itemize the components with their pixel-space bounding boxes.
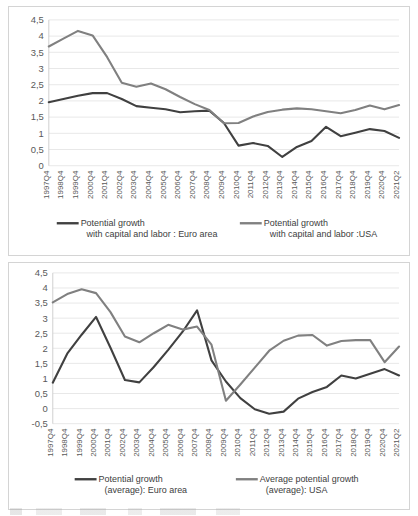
x-axis-tick-label: 2016Q4 xyxy=(319,170,328,199)
figure-container: 00,511,522,533,544,51997Q41998Q41999Q420… xyxy=(0,0,418,516)
legend-label-line2: (average): USA xyxy=(266,485,328,495)
x-axis-tick-label: 2006Q4 xyxy=(173,170,182,199)
x-axis-tick-label: 2005Q4 xyxy=(161,428,170,457)
x-axis-tick-label: 2020Q4 xyxy=(377,170,386,199)
x-axis-tick-label: 2011Q4 xyxy=(246,170,255,198)
x-axis-tick-label: 2014Q4 xyxy=(291,428,300,457)
x-axis-tick-label: 2019Q4 xyxy=(363,170,372,199)
x-axis-tick-label: 2006Q4 xyxy=(176,428,185,457)
y-axis-tick-label: 2 xyxy=(43,343,48,354)
y-axis-tick-label: 1,5 xyxy=(31,111,44,122)
x-axis-tick-label: 2015Q4 xyxy=(305,428,314,457)
x-axis-tick-label: 2021Q2 xyxy=(392,428,401,457)
x-axis-tick-label: 1999Q4 xyxy=(75,428,84,457)
x-axis-tick-label: 2001Q4 xyxy=(100,170,109,199)
x-axis-tick-label: 1997Q4 xyxy=(46,428,55,457)
chart-bottom-plot-area: -0,500,511,522,533,544,51997Q41998Q41999… xyxy=(9,263,409,509)
x-axis-tick-label: 1998Q4 xyxy=(56,170,65,199)
legend-label-line2: with capital and labor :USA xyxy=(269,229,378,239)
x-axis-tick-label: 2011Q4 xyxy=(248,428,257,456)
series-line xyxy=(53,289,399,401)
y-axis-tick-label: -0,5 xyxy=(32,418,48,429)
x-axis-tick-label: 2009Q4 xyxy=(217,170,226,199)
y-axis-tick-label: 3 xyxy=(39,63,44,74)
x-axis-tick-label: 2009Q4 xyxy=(219,428,228,457)
y-axis-tick-label: 2,5 xyxy=(31,79,44,90)
legend-label: Potential growth xyxy=(81,218,145,228)
y-axis-tick-label: 2 xyxy=(39,95,44,106)
legend-label: Potential growth xyxy=(264,218,328,228)
y-axis-tick-label: 1,5 xyxy=(35,358,48,369)
x-axis-tick-label: 2010Q4 xyxy=(233,428,242,457)
x-axis-tick-label: 2017Q4 xyxy=(334,170,343,199)
x-axis-tick-label: 2000Q4 xyxy=(89,428,98,457)
x-axis-tick-label: 2019Q4 xyxy=(363,428,372,457)
x-axis-tick-label: 1998Q4 xyxy=(60,428,69,457)
legend-label-line2: (average): Euro area xyxy=(105,485,188,495)
chart-average-potential-growth: -0,500,511,522,533,544,51997Q41998Q41999… xyxy=(8,262,410,510)
chart-top-svg: 00,511,522,533,544,51997Q41998Q41999Q420… xyxy=(9,7,409,255)
y-axis-tick-label: 0 xyxy=(43,403,48,414)
x-axis-tick-label: 2001Q4 xyxy=(103,428,112,457)
y-axis-tick-label: 1 xyxy=(39,128,44,139)
x-axis-tick-label: 2018Q4 xyxy=(348,170,357,199)
page-text-artifact xyxy=(10,508,270,515)
x-axis-tick-label: 2002Q4 xyxy=(115,170,124,199)
x-axis-tick-label: 2007Q4 xyxy=(190,428,199,457)
y-axis-tick-label: 4,5 xyxy=(35,267,48,278)
x-axis-tick-label: 2017Q4 xyxy=(334,428,343,457)
x-axis-tick-label: 2015Q4 xyxy=(304,170,313,199)
x-axis-tick-label: 2003Q4 xyxy=(132,428,141,457)
y-axis-tick-label: 3 xyxy=(43,313,48,324)
x-axis-tick-label: 2004Q4 xyxy=(144,170,153,199)
x-axis-tick-label: 2012Q4 xyxy=(261,170,270,199)
x-axis-tick-label: 2014Q4 xyxy=(290,170,299,199)
y-axis-tick-label: 3,5 xyxy=(31,47,44,58)
x-axis-tick-label: 2020Q4 xyxy=(378,428,387,457)
x-axis-tick-label: 2021Q2 xyxy=(392,170,401,199)
x-axis-tick-label: 2008Q4 xyxy=(202,170,211,199)
x-axis-tick-label: 2013Q4 xyxy=(275,170,284,199)
y-axis-tick-label: 4 xyxy=(39,30,44,41)
x-axis-tick-label: 1999Q4 xyxy=(71,170,80,199)
x-axis-tick-label: 2012Q4 xyxy=(262,428,271,457)
y-axis-tick-label: 3,5 xyxy=(35,297,48,308)
y-axis-tick-label: 1 xyxy=(43,373,48,384)
y-axis-tick-label: 4,5 xyxy=(31,14,44,25)
x-axis-tick-label: 2000Q4 xyxy=(86,170,95,199)
x-axis-tick-label: 2018Q4 xyxy=(349,428,358,457)
y-axis-tick-label: 2,5 xyxy=(35,328,48,339)
x-axis-tick-label: 2013Q4 xyxy=(277,428,286,457)
series-line xyxy=(49,93,399,157)
x-axis-tick-label: 1997Q4 xyxy=(42,170,51,199)
chart-bottom-svg: -0,500,511,522,533,544,51997Q41998Q41999… xyxy=(9,263,409,509)
x-axis-tick-label: 2004Q4 xyxy=(147,428,156,457)
x-axis-tick-label: 2008Q4 xyxy=(204,428,213,457)
x-axis-tick-label: 2002Q4 xyxy=(118,428,127,457)
y-axis-tick-label: 0,5 xyxy=(35,388,48,399)
x-axis-tick-label: 2005Q4 xyxy=(159,170,168,199)
y-axis-tick-label: 0,5 xyxy=(31,144,44,155)
series-line xyxy=(49,31,399,123)
x-axis-tick-label: 2003Q4 xyxy=(129,170,138,199)
y-axis-tick-label: 0 xyxy=(39,160,44,171)
legend-label: Potential growth xyxy=(99,474,163,484)
x-axis-tick-label: 2016Q4 xyxy=(320,428,329,457)
chart-top-plot-area: 00,511,522,533,544,51997Q41998Q41999Q420… xyxy=(9,7,409,255)
legend-label: Average potential growth xyxy=(260,474,359,484)
x-axis-tick-label: 2007Q4 xyxy=(188,170,197,199)
chart-potential-growth-with-capital-and-labor: 00,511,522,533,544,51997Q41998Q41999Q420… xyxy=(8,6,410,256)
legend-label-line2: with capital and labor : Euro area xyxy=(86,229,218,239)
x-axis-tick-label: 2010Q4 xyxy=(232,170,241,199)
y-axis-tick-label: 4 xyxy=(43,282,48,293)
